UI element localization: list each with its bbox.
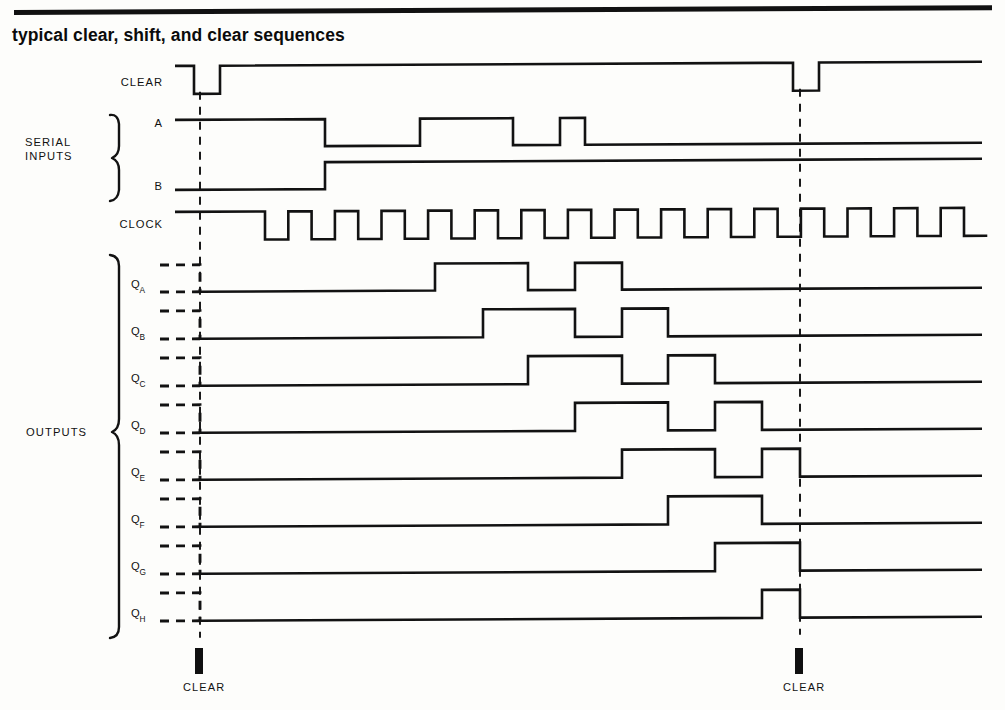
waveform-qe-trace	[200, 449, 982, 480]
waveform-qd-trace	[200, 402, 982, 433]
waveform-a	[175, 118, 982, 146]
waveform-qa	[160, 263, 982, 292]
waveform-clock-trace	[175, 208, 987, 240]
waveform-qh-dashed-high	[160, 593, 200, 621]
signal-label-b: B	[155, 180, 163, 192]
group-label-outputs: OUTPUTS	[26, 426, 87, 438]
waveforms-layer	[160, 62, 987, 621]
signal-label-qg-subscript: G	[140, 567, 147, 577]
clear-marker-1: CLEAR	[183, 648, 225, 693]
signal-label-qb-subscript: B	[140, 332, 146, 342]
figure-page: typical clear, shift, and clear sequence…	[0, 0, 1005, 710]
waveform-qh	[160, 590, 982, 621]
group-label-serial-inputs-line2: INPUTS	[25, 150, 73, 162]
signal-label-clear: CLEAR	[121, 76, 163, 88]
waveform-clear-trace	[175, 62, 982, 94]
signal-label-qd-subscript: D	[140, 426, 146, 436]
timing-diagram: CLEARABCLOCKQAQBQCQDQEQFQGQH SERIAL INPU…	[0, 0, 1005, 710]
waveform-qg-trace	[200, 543, 982, 574]
waveform-qb	[160, 308, 982, 339]
signal-label-qe-subscript: E	[140, 473, 146, 483]
waveform-qa-trace	[200, 263, 982, 292]
waveform-qd	[160, 402, 982, 433]
waveform-qf-trace	[200, 496, 982, 527]
waveform-qd-dashed-high	[160, 405, 200, 433]
clear-guide-lines	[200, 89, 800, 638]
waveform-qf	[160, 496, 982, 527]
waveform-qc-dashed-high	[160, 358, 200, 386]
waveform-qf-dashed-high	[160, 499, 200, 527]
clear-marker-1-label: CLEAR	[183, 681, 225, 693]
waveform-a-trace	[175, 118, 982, 146]
waveform-clock	[175, 208, 987, 240]
waveform-qg-dashed-high	[160, 546, 200, 574]
signal-label-qa-subscript: A	[140, 285, 146, 295]
waveform-qa-dashed-high	[160, 265, 200, 292]
waveform-qb-trace	[200, 308, 982, 338]
group-label-serial-inputs-line1: SERIAL	[25, 136, 71, 148]
signal-label-qh-subscript: H	[140, 614, 146, 624]
clear-marker-2-label: CLEAR	[783, 681, 825, 693]
signal-label-a: A	[155, 117, 163, 129]
waveform-qg	[160, 543, 982, 574]
waveform-qe	[160, 449, 982, 480]
signal-label-qf-subscript: F	[140, 520, 145, 530]
waveform-b-trace	[175, 159, 982, 190]
waveform-qe-dashed-high	[160, 452, 200, 480]
waveform-b	[175, 159, 982, 190]
waveform-clear	[175, 62, 982, 94]
signal-labels-layer: CLEARABCLOCKQAQBQCQDQEQFQGQH	[119, 76, 163, 624]
waveform-qc	[160, 355, 982, 386]
clear-marker-2: CLEAR	[783, 648, 825, 693]
signal-label-clock: CLOCK	[119, 218, 163, 230]
serial-inputs-brace	[110, 115, 119, 201]
waveform-qc-trace	[200, 355, 982, 386]
waveform-qh-trace	[200, 590, 982, 621]
waveform-qb-dashed-high	[160, 311, 200, 339]
signal-label-qc-subscript: C	[140, 379, 146, 389]
outputs-brace	[110, 255, 119, 638]
